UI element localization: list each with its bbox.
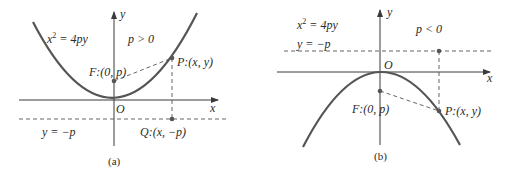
x-axis-label-a: x: [209, 101, 216, 115]
panel-a: y x O x2 = 4py p > 0 F:(0, p) P:(x, y) y…: [19, 7, 228, 168]
focus-point-b: [378, 89, 383, 94]
equation-a: x2 = 4py: [46, 31, 88, 46]
parabola-a: [33, 13, 197, 98]
origin-label-b: O: [384, 58, 393, 72]
origin-label-a: O: [116, 102, 125, 116]
point-p-label-a: P:(x, y): [176, 55, 213, 69]
equation-b: x2 = 4py: [296, 17, 338, 32]
directrix-label-b: y = −p: [296, 37, 331, 51]
panel-b: y x O x2 = 4py p < 0 y = −p F:(0, p) P:(…: [277, 5, 493, 163]
caption-b: (b): [374, 150, 387, 163]
condition-b: p < 0: [415, 22, 442, 36]
condition-a: p > 0: [127, 32, 154, 46]
x-axis-label-b: x: [486, 71, 493, 85]
caption-a: (a): [108, 155, 121, 168]
point-q-label-a: Q:(x, −p): [140, 125, 186, 139]
directrix-label-a: y = −p: [41, 125, 76, 139]
parabola-figure: y x O x2 = 4py p > 0 F:(0, p) P:(x, y) y…: [0, 0, 507, 176]
point-p-b: [437, 109, 442, 114]
focus-label-b: F:(0, p): [351, 102, 389, 116]
directrix-point-b: [437, 49, 442, 54]
point-q-a: [170, 117, 175, 122]
focus-label-a: F:(0, p): [88, 65, 126, 79]
point-p-a: [170, 56, 175, 61]
y-axis-label-a: y: [119, 7, 126, 21]
point-p-label-b: P:(x, y): [444, 104, 481, 118]
y-axis-label-b: y: [386, 5, 393, 19]
focus-point-a: [112, 79, 117, 84]
